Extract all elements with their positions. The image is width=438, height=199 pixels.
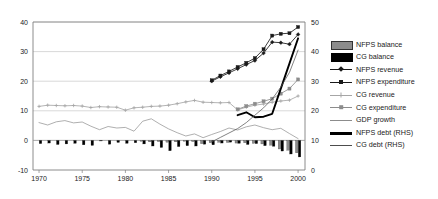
bar-cg-balance: [143, 140, 146, 144]
x-axis-tick-label: 1970: [31, 175, 47, 182]
bar-cg-balance: [56, 140, 59, 144]
bar-cg-balance: [272, 140, 275, 146]
legend-label: NFPS debt (RHS): [356, 129, 413, 136]
y-axis-tick-label: 20: [20, 78, 28, 85]
legend-swatch-bar-black: [330, 51, 352, 62]
bar-nfps-balance: [270, 140, 273, 145]
bar-cg-balance: [48, 140, 51, 143]
bar-nfps-balance: [261, 140, 264, 144]
bar-cg-balance: [126, 140, 129, 143]
bar-cg-balance: [195, 140, 198, 146]
legend-item[interactable]: GDP growth: [330, 114, 438, 127]
bar-cg-balance: [160, 140, 163, 147]
legend-swatch-line-thick-black: [330, 127, 352, 138]
x-axis-tick-label: 1995: [247, 175, 263, 182]
y-axis-tick-label: 0: [24, 137, 28, 144]
bar-cg-balance: [39, 140, 42, 143]
bar-nfps-balance: [200, 140, 203, 143]
bar-cg-balance: [100, 140, 103, 141]
bar-nfps-balance: [166, 140, 169, 142]
legend-label: NFPS revenue: [356, 66, 403, 73]
bar-cg-balance: [255, 140, 258, 143]
y2-axis-tick-label: 20: [311, 107, 319, 114]
bar-nfps-balance: [218, 140, 221, 142]
bar-cg-balance: [65, 140, 68, 144]
bar-cg-balance: [169, 140, 172, 150]
x-axis-tick-label: 1990: [204, 175, 220, 182]
y-axis-tick-label: 40: [20, 19, 28, 26]
legend-swatch-line-square-gray: [330, 102, 352, 113]
chart-container: -100102030400102030405019701975198019851…: [0, 0, 438, 199]
x-axis-tick-label: 1985: [161, 175, 177, 182]
bar-nfps-balance: [183, 140, 186, 141]
bar-cg-balance: [264, 140, 267, 145]
y-axis-tick-label: 30: [20, 48, 28, 55]
bar-nfps-balance: [175, 140, 178, 141]
y2-axis-tick-label: 0: [311, 167, 315, 174]
bar-nfps-balance: [278, 140, 281, 149]
bar-cg-balance: [246, 140, 249, 144]
bar-cg-balance: [117, 140, 120, 142]
chart-legend: NFPS balanceCG balanceNFPS revenueNFPS e…: [330, 38, 438, 151]
bar-nfps-balance: [157, 140, 160, 141]
series-cg-debt-rhs: [212, 50, 298, 142]
legend-swatch-line-square: [330, 77, 352, 88]
bar-cg-balance: [203, 140, 206, 144]
legend-swatch-line-plain-gray: [330, 114, 352, 125]
bar-nfps-balance: [244, 140, 247, 142]
bar-nfps-balance: [252, 140, 255, 143]
bar-cg-balance: [82, 140, 85, 144]
bar-cg-balance: [290, 140, 293, 154]
legend-item[interactable]: CG expenditure: [330, 101, 438, 114]
bar-cg-balance: [221, 140, 224, 143]
legend-label: CG debt (RHS): [356, 141, 405, 148]
legend-item[interactable]: NFPS expenditure: [330, 76, 438, 89]
y-axis-tick-label: -10: [18, 167, 28, 174]
legend-item[interactable]: NFPS debt (RHS): [330, 126, 438, 139]
bar-cg-balance: [281, 140, 284, 151]
legend-swatch-line-plain-dark: [330, 140, 352, 151]
legend-label: CG balance: [356, 53, 394, 60]
legend-item[interactable]: CG revenue: [330, 88, 438, 101]
bar-cg-balance: [229, 140, 232, 142]
x-axis-tick-label: 1980: [118, 175, 134, 182]
bar-nfps-balance: [192, 140, 195, 141]
legend-swatch-bar-gray: [330, 39, 352, 50]
series-cg-expenditure: [236, 78, 300, 111]
legend-label: CG revenue: [356, 91, 395, 98]
legend-item[interactable]: CG balance: [330, 51, 438, 64]
legend-label: CG expenditure: [356, 104, 406, 111]
bar-cg-balance: [134, 140, 137, 142]
legend-swatch-line-cross-gray: [330, 89, 352, 100]
x-axis-tick-label: 2000: [290, 175, 306, 182]
bar-nfps-balance: [235, 140, 238, 143]
x-axis-tick-label: 1975: [74, 175, 90, 182]
bar-cg-balance: [186, 140, 189, 145]
legend-item[interactable]: CG debt (RHS): [330, 139, 438, 152]
y-axis-tick-label: 10: [20, 107, 28, 114]
series-gdp-growth: [39, 119, 298, 139]
bar-nfps-balance: [140, 140, 143, 141]
legend-label: GDP growth: [356, 116, 395, 123]
y2-axis-tick-label: 40: [311, 48, 319, 55]
bar-cg-balance: [177, 140, 180, 146]
bar-cg-balance: [91, 140, 94, 145]
legend-item[interactable]: NFPS revenue: [330, 63, 438, 76]
legend-label: NFPS expenditure: [356, 78, 415, 85]
series-cg-revenue: [37, 94, 299, 112]
bar-nfps-balance: [226, 140, 229, 142]
legend-swatch-line-diamond: [330, 64, 352, 75]
bar-nfps-balance: [287, 140, 290, 150]
legend-label: NFPS balance: [356, 41, 402, 48]
bar-cg-balance: [74, 140, 77, 143]
legend-item[interactable]: NFPS balance: [330, 38, 438, 51]
y2-axis-tick-label: 30: [311, 78, 319, 85]
bar-cg-balance: [108, 140, 111, 144]
bar-cg-balance: [151, 140, 154, 146]
bar-cg-balance: [238, 140, 241, 143]
bar-nfps-balance: [149, 140, 152, 141]
bar-cg-balance: [298, 140, 301, 157]
y2-axis-tick-label: 50: [311, 19, 319, 26]
bar-nfps-balance: [295, 140, 298, 152]
y2-axis-tick-label: 10: [311, 137, 319, 144]
